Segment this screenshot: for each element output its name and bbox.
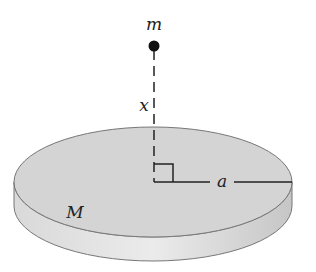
label-x: x: [139, 95, 149, 115]
disk-diagram: m x a M: [0, 0, 316, 272]
label-M: M: [65, 202, 84, 222]
point-mass-dot: [149, 41, 160, 52]
label-m: m: [146, 14, 162, 34]
label-a: a: [217, 171, 227, 191]
